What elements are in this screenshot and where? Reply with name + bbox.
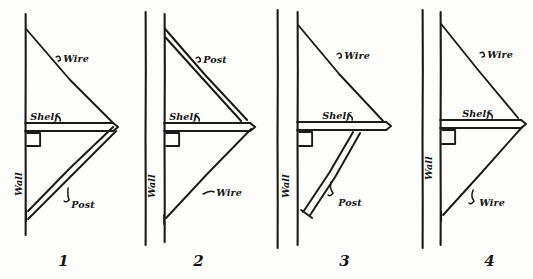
upper-member-wire [26,29,112,122]
wall-double-line [277,10,297,248]
label-shelf: Shelf [462,108,492,119]
label-post-upper: Post [196,54,227,65]
label-post-lower: Post [328,182,362,208]
label-shelf-text: Shelf [30,111,60,122]
label-wire-upper-text: Wire [487,49,513,60]
figure-3: Wire Shelf Wall Post 3 [267,0,400,279]
shelf-member [440,120,526,128]
label-post-lower-text: Post [70,199,95,210]
label-wire-lower-text: Wire [479,197,505,208]
figure-number-3: 3 [339,252,349,270]
diagram-sheet: Wire Shelf Wall Post 1 [0,0,533,279]
figure-1: Wire Shelf Wall Post 1 [0,0,133,279]
label-post-upper-text: Post [202,54,227,65]
shelf-member [25,123,118,131]
label-shelf: Shelf [169,111,199,122]
label-wire-lower: Wire [469,190,505,208]
label-post-lower: Post [64,188,95,210]
wall-double-line [422,10,440,248]
right-angle-mark [299,132,312,146]
label-wall-text: Wall [146,174,157,198]
figure-number-2: 2 [192,252,203,270]
figure-2-drawing: Post Shelf Wall Wire 2 [133,0,266,279]
label-wire-upper: Wire [56,53,89,64]
label-wall: Wall [13,172,24,196]
label-wire-lower-text: Wire [216,187,242,198]
label-wall-text: Wall [13,172,24,196]
figure-number-4: 4 [484,252,494,270]
label-wire-lower: Wire [203,187,242,198]
upper-member-wire [298,25,383,121]
figure-3-drawing: Wire Shelf Wall Post 3 [267,0,400,279]
figure-row: Wire Shelf Wall Post 1 [0,0,533,279]
label-wall: Wall [423,156,434,180]
right-angle-mark [166,133,179,146]
label-shelf-text: Shelf [462,108,492,119]
label-shelf: Shelf [30,111,60,122]
right-angle-mark [442,130,455,144]
shelf-member [164,123,255,131]
label-wall: Wall [280,174,291,198]
figure-2: Post Shelf Wall Wire 2 [133,0,266,279]
label-shelf-text: Shelf [169,111,199,122]
label-wall: Wall [146,174,157,198]
label-wire-upper: Wire [480,49,513,60]
right-angle-mark [27,133,40,146]
figure-4-drawing: Wire Shelf Wall Wire 4 [400,0,533,279]
label-shelf: Shelf [322,110,352,121]
label-wall-text: Wall [423,156,434,180]
label-wire-upper-text: Wire [344,50,370,61]
figure-4: Wire Shelf Wall Wire 4 [400,0,533,279]
figure-number-1: 1 [58,252,68,270]
label-wire-upper-text: Wire [63,53,89,64]
wall-double-line [146,12,165,245]
label-wire-upper: Wire [337,50,370,61]
lower-member-wire [164,129,251,224]
label-wall-text: Wall [280,174,291,198]
shelf-member [297,122,391,130]
upper-member-wire [441,24,518,118]
label-post-lower-text: Post [337,197,362,208]
label-shelf-text: Shelf [322,110,352,121]
figure-1-drawing: Wire Shelf Wall Post 1 [0,0,133,279]
upper-member-post [165,29,247,121]
